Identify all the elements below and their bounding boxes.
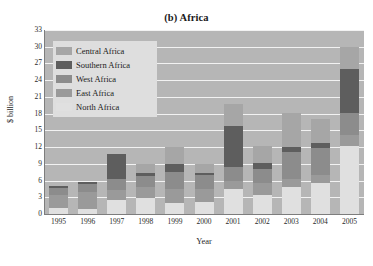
bar-segment[interactable]	[78, 184, 97, 192]
bar-segment[interactable]	[195, 189, 214, 202]
x-axis-line	[44, 214, 364, 215]
bar-segment[interactable]	[195, 173, 214, 175]
legend-item-label: West Africa	[76, 74, 116, 84]
bar-group[interactable]	[224, 30, 243, 214]
legend-swatch-icon	[56, 61, 72, 69]
y-axis-tick-label: 12	[20, 143, 42, 151]
bar-segment[interactable]	[340, 47, 359, 69]
bar-segment[interactable]	[253, 169, 272, 183]
legend-swatch-icon	[56, 47, 72, 55]
y-axis-tick-label: 21	[20, 93, 42, 101]
bar-segment[interactable]	[165, 164, 184, 172]
bar-segment[interactable]	[340, 113, 359, 135]
bar-segment[interactable]	[49, 186, 68, 188]
legend-item[interactable]: Southern Africa	[56, 58, 155, 72]
bar-segment[interactable]	[282, 152, 301, 179]
legend-item[interactable]: Central Africa	[56, 44, 155, 58]
x-axis-tick-label: 2001	[218, 217, 248, 226]
y-axis-tick-label: 27	[20, 59, 42, 67]
bar-segment[interactable]	[165, 203, 184, 214]
bar-segment[interactable]	[224, 181, 243, 189]
y-axis-title: $ billion	[6, 75, 15, 145]
y-axis-tick-label: 15	[20, 126, 42, 134]
bar-group[interactable]	[253, 30, 272, 214]
bar-segment[interactable]	[107, 154, 126, 179]
bar-segment[interactable]	[311, 183, 330, 214]
bar-segment[interactable]	[107, 200, 126, 214]
y-axis-tick-label: 9	[20, 160, 42, 168]
legend-item[interactable]: North Africa	[56, 100, 155, 114]
legend-item[interactable]: East Africa	[56, 86, 155, 100]
bar-segment[interactable]	[340, 135, 359, 146]
bar-segment[interactable]	[195, 202, 214, 214]
bar-segment[interactable]	[224, 189, 243, 214]
legend-item[interactable]: West Africa	[56, 72, 155, 86]
bar-segment[interactable]	[136, 173, 155, 176]
bar-segment[interactable]	[340, 146, 359, 214]
y-axis-tick-label: 3	[20, 193, 42, 201]
bar-segment[interactable]	[107, 190, 126, 200]
bar-segment[interactable]	[224, 104, 243, 126]
bar-segment[interactable]	[165, 172, 184, 189]
x-axis-tick-label: 2000	[189, 217, 219, 226]
bar-segment[interactable]	[136, 187, 155, 198]
bar-segment[interactable]	[136, 198, 155, 214]
bar-segment[interactable]	[253, 183, 272, 194]
bar-segment[interactable]	[165, 189, 184, 203]
legend-swatch-icon	[56, 75, 72, 83]
bar-group[interactable]	[165, 30, 184, 214]
bar-segment[interactable]	[282, 113, 301, 146]
figure-africa-fdi-chart: (b) Africa $ billion 0369121518212427303…	[0, 0, 373, 266]
x-axis-title: Year	[44, 236, 364, 246]
x-axis-tick-label: 2004	[305, 217, 335, 226]
y-axis-tick-label: 18	[20, 110, 42, 118]
bar-segment[interactable]	[49, 195, 68, 209]
bar-group[interactable]	[195, 30, 214, 214]
y-axis-line	[44, 30, 45, 215]
y-axis-tick-labels: 03691215182124273033	[16, 30, 42, 214]
x-axis-tick-labels: 1995199619971998199920002001200220032004…	[44, 217, 364, 229]
bar-segment[interactable]	[253, 195, 272, 215]
bar-segment[interactable]	[49, 188, 68, 195]
legend-item-label: Central Africa	[76, 46, 124, 56]
bar-segment[interactable]	[224, 167, 243, 181]
legend-item-label: Southern Africa	[76, 60, 130, 70]
bar-segment[interactable]	[78, 192, 97, 209]
bar-segment[interactable]	[195, 164, 214, 172]
bar-segment[interactable]	[224, 126, 243, 167]
y-axis-tick-label: 33	[20, 26, 42, 34]
bar-segment[interactable]	[311, 148, 330, 175]
bar-group[interactable]	[282, 30, 301, 214]
legend-item-label: North Africa	[76, 102, 119, 112]
bar-segment[interactable]	[165, 147, 184, 165]
bar-group[interactable]	[340, 30, 359, 214]
bar-segment[interactable]	[340, 69, 359, 112]
y-axis-tick-label: 6	[20, 177, 42, 185]
bar-segment[interactable]	[311, 175, 330, 183]
y-axis-tick-label: 0	[20, 210, 42, 218]
bar-segment[interactable]	[311, 119, 330, 144]
bar-segment[interactable]	[253, 146, 272, 163]
y-axis-tick-label: 24	[20, 76, 42, 84]
bar-segment[interactable]	[107, 179, 126, 190]
bar-segment[interactable]	[311, 143, 330, 148]
legend-swatch-icon	[56, 89, 72, 97]
legend-item-label: East Africa	[76, 88, 114, 98]
chart-title: (b) Africa	[0, 12, 373, 23]
x-axis-tick-label: 2005	[334, 217, 364, 226]
bar-segment[interactable]	[136, 176, 155, 187]
legend-swatch-icon	[56, 103, 72, 111]
bar-segment[interactable]	[253, 163, 272, 170]
bar-segment[interactable]	[195, 175, 214, 189]
bar-segment[interactable]	[282, 147, 301, 152]
bar-group[interactable]	[311, 30, 330, 214]
x-axis-tick-label: 1998	[131, 217, 161, 226]
x-axis-tick-label: 1995	[44, 217, 74, 226]
chart-legend: Central AfricaSouthern AfricaWest Africa…	[53, 41, 157, 117]
bar-segment[interactable]	[136, 164, 155, 172]
bar-segment[interactable]	[282, 187, 301, 214]
bar-segment[interactable]	[282, 179, 301, 187]
x-axis-tick-label: 2003	[276, 217, 306, 226]
bar-segment[interactable]	[78, 182, 97, 185]
x-axis-tick-label: 2002	[247, 217, 277, 226]
